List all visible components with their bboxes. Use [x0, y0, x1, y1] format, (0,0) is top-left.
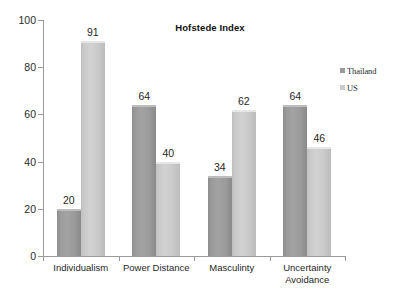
bar-fill [81, 41, 105, 256]
bar-us-3 [307, 147, 331, 256]
legend-item-us[interactable]: US [340, 79, 412, 96]
x-axis-category-label: Masculinty [209, 262, 254, 274]
y-axis-tick-label: 20 [0, 203, 36, 215]
bar-value-label: 64 [138, 90, 150, 102]
legend-item-label: Thailand [347, 66, 376, 76]
y-axis-line [43, 20, 44, 257]
x-axis-category-label: Uncertainty Avoidance [283, 262, 331, 285]
bar-fill [208, 176, 232, 256]
bar-value-label: 64 [289, 90, 301, 102]
x-axis-tick-mark [43, 256, 44, 261]
y-axis-tick-mark [38, 20, 43, 21]
x-axis-tick-mark [119, 256, 120, 261]
bar-us-0 [81, 41, 105, 256]
bar-value-label: 91 [87, 26, 99, 38]
bar-thailand-2 [208, 176, 232, 256]
bar-fill [283, 105, 307, 256]
legend-item-label: US [347, 83, 358, 93]
x-axis-category-label: Power Distance [123, 262, 190, 274]
legend: ThailandUS [340, 62, 412, 96]
y-axis-tick-mark [38, 67, 43, 68]
y-axis-tick-mark [38, 162, 43, 163]
x-axis-tick-mark [194, 256, 195, 261]
bar-fill [307, 147, 331, 256]
bar-thailand-3 [283, 105, 307, 256]
x-axis-tick-mark [345, 256, 346, 261]
x-axis-category-label: Individualism [53, 262, 108, 274]
bar-fill [132, 105, 156, 256]
bar-value-label: 40 [162, 147, 174, 159]
bar-fill [156, 162, 180, 256]
bar-us-2 [232, 110, 256, 256]
y-axis-tick-mark [38, 209, 43, 210]
bar-us-1 [156, 162, 180, 256]
bar-fill [57, 209, 81, 256]
bar-fill [232, 110, 256, 256]
y-axis-tick-label: 100 [0, 14, 36, 26]
bar-value-label: 34 [214, 161, 226, 173]
y-axis-tick-label: 40 [0, 156, 36, 168]
legend-swatch-us [340, 85, 345, 90]
y-axis-tick-mark [38, 114, 43, 115]
legend-item-thailand[interactable]: Thailand [340, 62, 412, 79]
bar-thailand-1 [132, 105, 156, 256]
y-axis-tick-label: 0 [0, 250, 36, 262]
y-axis-tick-label: 60 [0, 108, 36, 120]
hofstede-index-chart: Hofstede Index 020406080100 209164403462… [0, 0, 413, 304]
bar-value-label: 20 [63, 194, 75, 206]
x-axis-tick-mark [270, 256, 271, 261]
bar-thailand-0 [57, 209, 81, 256]
bar-value-label: 62 [238, 95, 250, 107]
chart-title: Hofstede Index [120, 22, 300, 33]
y-axis-tick-label: 80 [0, 61, 36, 73]
legend-swatch-thailand [340, 68, 345, 73]
bar-value-label: 46 [313, 132, 325, 144]
